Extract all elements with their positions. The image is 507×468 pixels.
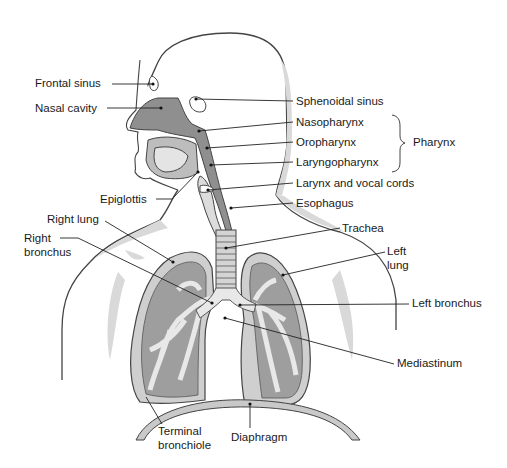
pharynx-brace bbox=[392, 115, 405, 172]
label-left-lung-line1: Left bbox=[387, 244, 406, 258]
label-nasopharynx: Nasopharynx bbox=[296, 115, 364, 129]
label-trachea: Trachea bbox=[342, 221, 384, 235]
trachea bbox=[216, 230, 236, 290]
mediastinum-region bbox=[212, 310, 240, 398]
left-lung bbox=[240, 253, 310, 405]
label-nasal-cavity: Nasal cavity bbox=[35, 101, 97, 115]
label-right-lung: Right lung bbox=[47, 212, 99, 226]
label-pharynx: Pharynx bbox=[413, 135, 455, 149]
label-diaphragm: Diaphragm bbox=[231, 430, 287, 444]
label-right-bronchus-line1: Right bbox=[24, 231, 51, 245]
label-mediastinum: Mediastinum bbox=[397, 356, 462, 370]
label-terminal-bronchiole-line2: bronchiole bbox=[158, 438, 211, 452]
label-larynx: Larynx and vocal cords bbox=[296, 176, 414, 190]
label-frontal-sinus: Frontal sinus bbox=[35, 76, 101, 90]
label-epiglottis: Epiglottis bbox=[100, 192, 147, 206]
right-lung bbox=[131, 252, 214, 403]
label-left-lung-line2: lung bbox=[387, 258, 409, 272]
label-esophagus: Esophagus bbox=[296, 196, 354, 210]
label-sphenoidal-sinus: Sphenoidal sinus bbox=[296, 94, 384, 108]
label-right-bronchus-line2: bronchus bbox=[24, 245, 71, 259]
label-laryngopharynx: Laryngopharynx bbox=[296, 155, 378, 169]
respiratory-system-illustration bbox=[0, 0, 507, 468]
label-left-bronchus: Left bronchus bbox=[412, 296, 482, 310]
label-terminal-bronchiole-line1: Terminal bbox=[158, 424, 201, 438]
label-oropharynx: Oropharynx bbox=[296, 135, 356, 149]
